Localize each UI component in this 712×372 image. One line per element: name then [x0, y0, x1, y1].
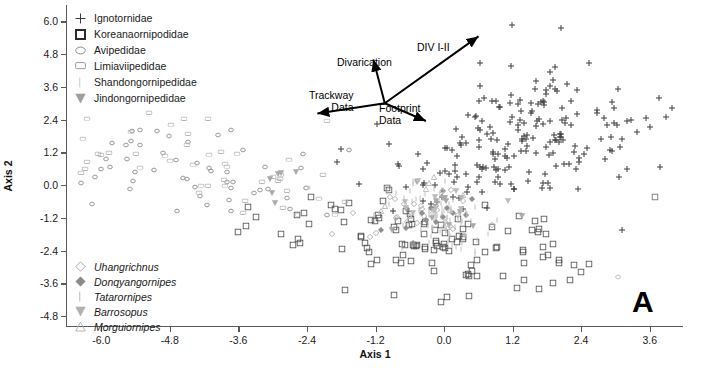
data-point: [174, 208, 180, 214]
data-point: [578, 269, 585, 276]
data-point: [551, 132, 558, 139]
data-point: [546, 117, 553, 124]
data-point: [444, 145, 451, 152]
data-point: [528, 100, 535, 107]
data-point: [505, 197, 512, 204]
legend-item[interactable]: Tatarornipes: [70, 289, 176, 304]
data-point: [342, 287, 349, 294]
data-point: [423, 160, 430, 167]
data-point: [546, 139, 553, 146]
annotation-divarication: Divarication: [337, 56, 392, 68]
diamond-filled-icon: [70, 276, 90, 287]
data-point: [490, 163, 497, 170]
data-point: [124, 156, 130, 162]
data-point: [473, 179, 480, 186]
data-point: [189, 162, 196, 167]
legend-item[interactable]: Avipedidae: [70, 42, 197, 58]
legend-item[interactable]: Jindongornipedidae: [70, 90, 197, 106]
legend-item[interactable]: Donqyangornipes: [70, 274, 176, 289]
data-point: [218, 149, 225, 154]
data-point: [616, 144, 623, 151]
annotation-footprint-data: Footprint Data: [379, 102, 420, 127]
data-point: [474, 124, 481, 131]
data-point: [267, 175, 274, 182]
data-point: [481, 202, 488, 209]
x-tick: [376, 327, 377, 332]
data-point: [464, 233, 467, 239]
legend-item[interactable]: Ignotornidae: [70, 10, 197, 26]
data-point: [615, 274, 621, 280]
data-point: [572, 166, 579, 173]
x-tick: [513, 327, 514, 332]
data-point: [226, 197, 232, 203]
data-point: [204, 116, 211, 121]
data-point: [497, 104, 504, 111]
data-point: [283, 188, 290, 193]
data-point: [528, 226, 535, 233]
data-point: [668, 104, 675, 111]
data-point: [295, 212, 302, 217]
data-point: [454, 173, 461, 180]
data-point: [342, 199, 349, 204]
data-point: [550, 280, 557, 287]
data-point: [244, 203, 251, 210]
data-point: [526, 169, 533, 176]
data-point: [285, 157, 292, 162]
data-point: [520, 247, 527, 254]
data-point: [128, 129, 135, 134]
data-point: [240, 147, 246, 153]
data-point: [315, 196, 322, 201]
legend-item[interactable]: Barrosopus: [70, 304, 176, 319]
data-point: [484, 130, 491, 137]
legend-item[interactable]: Morguiornipes: [70, 319, 176, 334]
data-point: [508, 22, 515, 29]
data-point: [278, 230, 285, 237]
data-point: [222, 183, 229, 188]
data-point: [476, 82, 483, 89]
data-point: [618, 227, 625, 234]
data-point: [327, 201, 334, 208]
legend-item-label: Ignotornidae: [90, 12, 152, 24]
data-point: [355, 180, 362, 187]
data-point: [575, 159, 582, 166]
data-point: [358, 232, 365, 239]
data-point: [430, 208, 437, 215]
data-point: [374, 257, 381, 264]
data-point: [608, 148, 615, 155]
data-point: [536, 285, 543, 292]
data-point: [293, 168, 300, 175]
data-point: [490, 129, 497, 136]
data-point: [540, 215, 547, 222]
triangle-down-icon: [70, 93, 90, 104]
data-point: [488, 97, 495, 104]
y-axis-title: Axis 2: [2, 161, 14, 192]
data-point: [440, 210, 443, 216]
data-point: [460, 246, 463, 252]
data-point: [473, 161, 480, 168]
data-point: [543, 91, 550, 98]
data-point: [434, 243, 441, 250]
data-point: [426, 180, 433, 187]
data-point: [602, 155, 609, 162]
legend-item[interactable]: Limiaviipedidae: [70, 58, 197, 74]
data-point: [452, 167, 459, 174]
legend-item[interactable]: Uhangrichnus: [70, 259, 176, 274]
data-point: [655, 95, 662, 102]
triangle-down-icon: [70, 306, 90, 317]
data-point: [567, 277, 574, 284]
y-tick-label: 2.4: [43, 114, 58, 126]
data-point: [323, 118, 330, 123]
data-point: [475, 136, 482, 143]
data-point: [167, 158, 174, 163]
y-tick: [61, 21, 67, 22]
data-point: [409, 240, 416, 247]
data-point: [89, 201, 95, 207]
data-point: [408, 188, 411, 194]
legend-item[interactable]: Shandongornipedidae: [70, 74, 197, 90]
data-point: [105, 151, 112, 156]
data-point: [127, 186, 133, 192]
y-tick: [61, 87, 67, 88]
legend-item[interactable]: Koreanaornipodidae: [70, 26, 197, 42]
data-point: [525, 178, 532, 185]
data-point: [332, 212, 339, 217]
